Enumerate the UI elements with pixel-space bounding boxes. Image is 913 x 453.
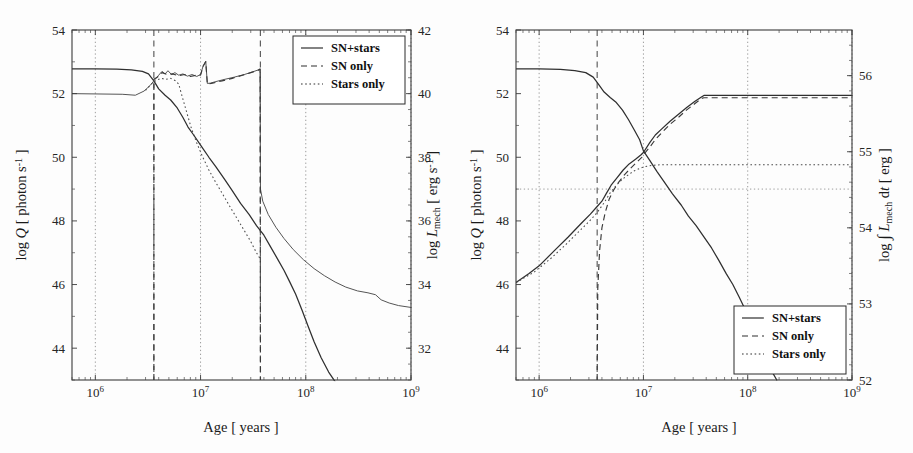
series-line-0: [72, 69, 335, 382]
legend-label: SN+stars: [331, 41, 380, 55]
y-tick-label: 54: [52, 23, 66, 38]
right-panel-xlabel: Age [ years ]: [661, 419, 736, 435]
figure-container: 106107108109444648505254323436384042 log…: [0, 0, 913, 453]
legend-label: SN only: [331, 59, 374, 73]
y2-tick-label: 40: [418, 86, 431, 101]
y2-tick-label: 56: [859, 68, 873, 83]
series-line-3: [146, 78, 261, 259]
y-tick-label: 52: [496, 86, 509, 101]
y-tick-label: 48: [52, 213, 65, 228]
series-line-3: [516, 165, 852, 283]
panel-left-svg: 106107108109444648505254323436384042 log…: [0, 0, 455, 453]
y2-tick-label: 34: [418, 277, 432, 292]
plot-clip-mask: [455, 0, 913, 30]
legend-label: Stars only: [331, 77, 386, 91]
y-tick-label: 44: [496, 341, 510, 356]
left-panel-legend: SN+starsSN onlyStars only: [293, 36, 405, 104]
y2-tick-label: 32: [418, 341, 431, 356]
panel-right-svg: 1061071081094446485052545253545556 log Q…: [455, 0, 913, 453]
y-tick-label: 44: [52, 341, 66, 356]
series-line-2: [154, 62, 261, 380]
y-tick-label: 52: [52, 86, 65, 101]
y2-tick-label: 55: [859, 144, 872, 159]
legend-label: Stars only: [772, 347, 827, 361]
y-tick-label: 54: [496, 23, 510, 38]
right-panel-legend: SN+starsSN onlyStars only: [734, 306, 846, 374]
panel-right: 1061071081094446485052545253545556 log Q…: [455, 0, 913, 453]
y2-tick-label: 42: [418, 23, 431, 38]
y2-tick-label: 36: [418, 213, 432, 228]
y2-tick-label: 54: [859, 220, 873, 235]
legend-label: SN only: [772, 329, 815, 343]
y-tick-label: 48: [496, 213, 509, 228]
y-tick-label: 50: [52, 150, 65, 165]
y2-tick-label: 52: [859, 373, 872, 388]
y-tick-label: 50: [496, 150, 509, 165]
legend-label: SN+stars: [772, 311, 821, 325]
y2-tick-label: 53: [859, 296, 872, 311]
panel-left: 106107108109444648505254323436384042 log…: [0, 0, 455, 453]
y-tick-label: 46: [496, 277, 510, 292]
left-panel-xlabel: Age [ years ]: [203, 419, 278, 435]
y-tick-label: 46: [52, 277, 66, 292]
